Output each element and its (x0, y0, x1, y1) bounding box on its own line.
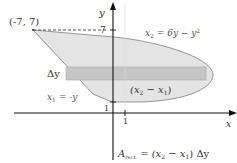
representative-strip (66, 67, 206, 80)
area-formula: Arect. = (x2 − x1) Δy (117, 148, 210, 160)
af-sub: rect. (125, 154, 137, 160)
tick-label-x1: 1 (123, 117, 128, 126)
delta-y-label: Δy (47, 68, 60, 79)
sw-mid: − x (143, 84, 164, 95)
sw-end: ) (168, 84, 172, 95)
x-axis-arrow (229, 110, 237, 116)
point-label: (-7, 7) (9, 16, 39, 27)
curve-left-label: x1 = -y (47, 92, 78, 103)
y-axis-label: y (98, 7, 105, 18)
curve-right-label: x2 = 6y − y2 (145, 27, 200, 39)
x-axis-label: x (226, 119, 231, 129)
tick-label-y7: 7 (100, 25, 106, 35)
area-diagram: (-7, 7) y x 7 1 1 Δy x2 = 6y − y2 x1 = -… (0, 0, 237, 163)
af-rest2: − x (165, 148, 186, 159)
af-A: A (117, 148, 125, 159)
tick-label-y1: 1 (104, 104, 109, 113)
af-rest3: ) Δy (189, 148, 209, 159)
y-axis-arrow (110, 2, 116, 10)
sw-open: (x (130, 84, 140, 95)
curve-left-rhs: = -y (56, 92, 78, 102)
af-rest1: = (x (137, 148, 162, 159)
point-neg7-7 (32, 29, 34, 31)
curve-right-sup: 2 (196, 27, 200, 34)
curve-right-rhs: = 6y − y (154, 28, 197, 38)
